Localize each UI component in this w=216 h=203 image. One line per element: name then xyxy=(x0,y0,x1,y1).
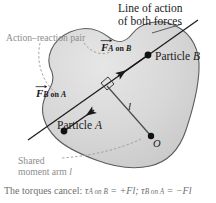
physics-figure-torque-cancellation: Line of action of both forces Action–rea… xyxy=(0,0,216,203)
label-force-a-on-b: FA on B xyxy=(101,41,131,54)
caption-torques-cancel: The torques cancel: τA on B = +Fl; τB on… xyxy=(4,185,191,196)
label-particle-a: Particle A xyxy=(57,119,102,132)
shared-moment-arm-symbol: l xyxy=(69,166,72,177)
title-line-2: of both forces xyxy=(118,15,183,28)
shared-moment-arm-text: moment arm xyxy=(18,166,67,177)
force-subscript-target: A xyxy=(61,90,66,99)
particle-b-dot xyxy=(145,52,152,59)
particle-a-word: Particle xyxy=(57,119,92,131)
particle-a-letter: A xyxy=(95,119,102,131)
caption-equation-2: = −Fl xyxy=(164,185,191,196)
force-letter: F xyxy=(101,41,108,53)
label-shared-moment-arm: Shared moment arm l xyxy=(18,156,72,177)
label-force-b-on-a: FB on A xyxy=(36,87,66,100)
caption-tau-2-subscript: B on A xyxy=(145,188,164,196)
caption-tau-1-subscript: A on B xyxy=(88,188,107,196)
particle-b-letter: B xyxy=(193,50,200,62)
caption-equation-1: = +Fl; xyxy=(108,185,141,196)
caption-lead-text: The torques cancel: xyxy=(4,185,85,196)
label-pivot-point-o: O xyxy=(153,138,161,150)
label-particle-b: Particle B xyxy=(155,50,200,63)
force-subscript-target: B xyxy=(126,44,131,53)
force-subscript-on: on xyxy=(49,90,61,99)
title-line-of-action: Line of action of both forces xyxy=(118,2,183,28)
force-letter: F xyxy=(36,87,43,99)
particle-b-word: Particle xyxy=(155,50,190,62)
label-action-reaction-pair: Action–reaction pair xyxy=(6,33,85,44)
force-symbol-f-a-on-b: F xyxy=(101,41,108,53)
shared-moment-arm-line-2: moment arm l xyxy=(18,167,72,178)
force-symbol-f-b-on-a: F xyxy=(36,87,43,99)
title-line-1: Line of action xyxy=(118,2,183,15)
force-subscript-on: on xyxy=(114,44,126,53)
label-moment-arm-length: l xyxy=(128,100,131,112)
